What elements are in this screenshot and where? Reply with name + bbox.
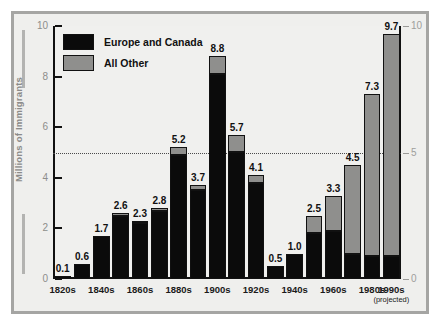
y-tick-2 (55, 227, 62, 229)
bar-1860s (132, 221, 148, 279)
y-tick-label-2: 2 (26, 223, 48, 233)
bar-value-label-1880s: 5.2 (164, 135, 194, 145)
bar-value-label-1990s: 9.7 (376, 22, 406, 32)
y-tick-6 (55, 126, 62, 128)
y-tick-10 (55, 25, 62, 27)
bar-1820s (54, 276, 70, 279)
y-tick-label-0: 0 (26, 274, 48, 284)
bar-1990s (383, 34, 399, 279)
y-tick-label-6: 6 (26, 122, 48, 132)
bar-segment-all-other-1980s (364, 94, 380, 256)
bar-segment-all-other-1910s (228, 135, 244, 153)
black-swatch-icon (63, 34, 94, 50)
bar-segment-europe-canada-1850s (112, 216, 128, 279)
bar-segment-europe-canada-1920s (248, 183, 264, 279)
bar-1840s (93, 236, 109, 279)
bar-1890s (190, 185, 206, 279)
bar-segment-all-other-1880s (170, 147, 186, 155)
y-tick-right-label-0: 0 (411, 274, 431, 284)
legend-label-europe-canada: Europe and Canada (104, 36, 203, 48)
bar-1980s (364, 94, 380, 279)
legend-item-all-other: All Other (63, 55, 203, 71)
bar-segment-europe-canada-1830s (74, 264, 90, 279)
bar-1830s (74, 264, 90, 279)
bar-segment-europe-canada-1980s (364, 256, 380, 279)
bar-1970s (344, 165, 360, 279)
bar-segment-europe-canada-1950s (306, 233, 322, 279)
bar-segment-europe-canada-1900s (209, 74, 225, 279)
bar-segment-europe-canada-1890s (190, 190, 206, 279)
y-tick-right-label-10: 10 (411, 21, 431, 31)
chart-legend: Europe and Canada All Other (63, 34, 203, 76)
bar-1910s (228, 135, 244, 279)
bar-segment-europe-canada-1870s (151, 211, 167, 279)
y-tick-label-4: 4 (26, 173, 48, 183)
bar-segment-all-other-1950s (306, 216, 322, 234)
y-tick-right-label-5: 5 (411, 148, 431, 158)
bar-1850s (112, 213, 128, 279)
y-tick-8 (55, 76, 62, 78)
bar-segment-europe-canada-1860s (132, 223, 148, 279)
y-tick-4 (55, 177, 62, 179)
bar-segment-europe-canada-1970s (344, 254, 360, 279)
bar-segment-europe-canada-1840s (93, 236, 109, 279)
x-tick-sublabel-projected: (projected) (364, 295, 418, 304)
y-axis-label: Millions of Immigrants (13, 50, 24, 210)
bar-segment-all-other-1920s (248, 175, 264, 183)
bar-segment-europe-canada-1930s (267, 266, 283, 279)
bar-segment-all-other-1970s (344, 165, 360, 254)
bar-value-label-1900s: 8.8 (202, 44, 232, 54)
legend-label-all-other: All Other (104, 57, 148, 69)
gray-swatch-icon (63, 55, 94, 71)
bar-1940s (286, 254, 302, 279)
x-tick-label-1990s: 1990s(projected) (364, 284, 418, 304)
bar-segment-all-other-1990s (383, 34, 399, 257)
y-tick-right-0 (403, 279, 409, 280)
y-tick-right-5 (403, 153, 409, 154)
bar-1950s (306, 216, 322, 279)
bar-segment-europe-canada-1990s (383, 256, 399, 279)
bar-segment-europe-canada-1820s (54, 276, 70, 279)
bar-1960s (325, 196, 341, 279)
ylabel-rule-bottom (22, 214, 25, 274)
bar-1870s (151, 208, 167, 279)
bar-1930s (267, 266, 283, 279)
bar-value-label-1920s: 4.1 (241, 163, 271, 173)
bar-value-label-1910s: 5.7 (222, 123, 252, 133)
y-tick-label-8: 8 (26, 72, 48, 82)
bar-1900s (209, 56, 225, 279)
bar-segment-europe-canada-1940s (286, 254, 302, 279)
legend-item-europe-canada: Europe and Canada (63, 34, 203, 50)
bar-segment-all-other-1900s (209, 56, 225, 74)
bar-segment-all-other-1960s (325, 196, 341, 231)
bar-segment-europe-canada-1960s (325, 231, 341, 279)
y-tick-label-10: 10 (26, 21, 48, 31)
chart-figure: Millions of Immigrants 0246810 0510 0.10… (0, 0, 440, 336)
bar-1880s (170, 147, 186, 279)
